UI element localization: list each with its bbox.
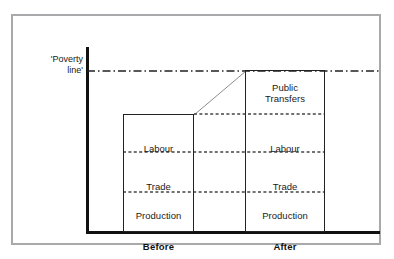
figure-frame: 'Poverty line' [11, 14, 381, 245]
segment-label-after-labour: Labour [246, 143, 324, 154]
figure-screenshot: 'Poverty line' [0, 0, 394, 259]
segment-label-before-labour: Labour [124, 143, 193, 154]
bar-after: Public Transfers Labour Trade Production [245, 70, 325, 232]
bar-before: Labour Trade Production [123, 114, 194, 232]
gap-connector-line [192, 69, 248, 117]
category-label-after: After [245, 241, 325, 252]
segment-label-after-trade: Trade [246, 181, 324, 192]
segment-label-after-public-transfers: Public Transfers [246, 82, 324, 104]
segment-label-after-production: Production [246, 210, 324, 221]
segment-label-before-trade: Trade [124, 181, 193, 192]
y-axis [86, 47, 89, 234]
poverty-line-label: 'Poverty line' [31, 54, 83, 76]
segment-label-before-production: Production [124, 210, 193, 221]
category-label-before: Before [123, 241, 194, 252]
